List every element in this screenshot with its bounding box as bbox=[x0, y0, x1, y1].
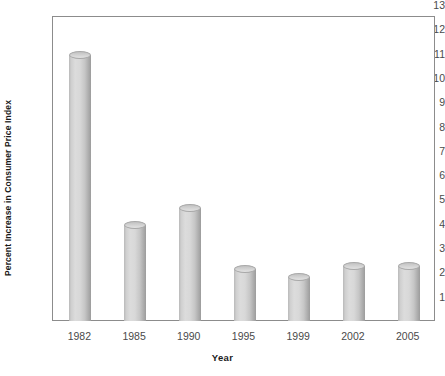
y-axis-title: Percent Increase in Consumer Price Index bbox=[0, 0, 16, 376]
bar bbox=[234, 269, 256, 321]
x-tick-label: 1995 bbox=[214, 330, 274, 342]
bar-chart: Percent Increase in Consumer Price Index… bbox=[0, 0, 445, 376]
bar bbox=[179, 208, 201, 321]
bar-body bbox=[288, 277, 310, 321]
x-tick-label: 1999 bbox=[268, 330, 328, 342]
bar-cap-ellipse bbox=[124, 221, 146, 229]
bar-body bbox=[234, 269, 256, 321]
bar bbox=[288, 277, 310, 321]
x-tick-label: 2005 bbox=[378, 330, 438, 342]
bar bbox=[69, 55, 91, 321]
bar-body bbox=[124, 225, 146, 321]
bar-body bbox=[398, 266, 420, 321]
bar bbox=[343, 266, 365, 321]
x-tick-label: 1985 bbox=[104, 330, 164, 342]
x-tick-label: 2002 bbox=[323, 330, 383, 342]
x-tick-label: 1982 bbox=[49, 330, 109, 342]
bar-cap-ellipse bbox=[398, 262, 420, 270]
y-axis-title-text: Percent Increase in Consumer Price Index bbox=[3, 100, 13, 276]
bar bbox=[398, 266, 420, 321]
bar-cap-ellipse bbox=[179, 204, 201, 212]
bar-body bbox=[179, 208, 201, 321]
bar-body bbox=[69, 55, 91, 321]
plot-area bbox=[52, 16, 435, 321]
bar-cap-ellipse bbox=[234, 265, 256, 273]
x-axis-title: Year bbox=[0, 352, 445, 363]
x-tick-label: 1990 bbox=[159, 330, 219, 342]
bar-body bbox=[343, 266, 365, 321]
y-tick-label: 13 bbox=[415, 0, 445, 11]
bar-cap-ellipse bbox=[69, 51, 91, 59]
bar bbox=[124, 225, 146, 321]
